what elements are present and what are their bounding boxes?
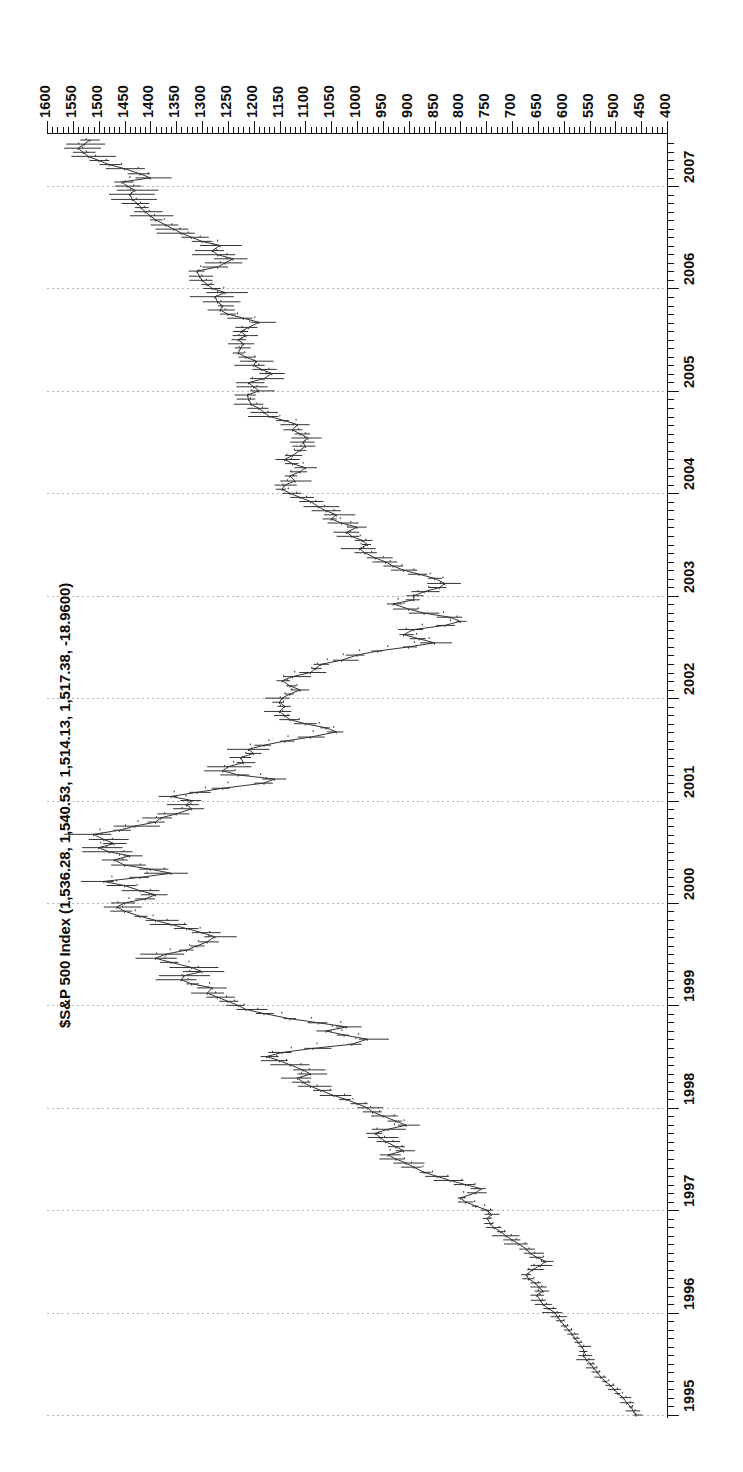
time-axis-minor-tick (668, 1389, 674, 1390)
value-axis-tick-label: 650 (528, 93, 544, 118)
time-axis-minor-tick (668, 1287, 674, 1288)
time-axis-minor-tick (668, 1338, 674, 1339)
time-axis-minor-tick (668, 476, 674, 477)
time-axis-minor-tick (668, 1355, 674, 1356)
value-axis-tick-label: 900 (399, 93, 415, 118)
time-axis-minor-tick (668, 775, 674, 776)
time-axis-minor-tick (668, 1091, 674, 1092)
time-axis-minor-tick (668, 1159, 674, 1160)
gridline (47, 801, 668, 802)
gridline (47, 1108, 668, 1109)
price-series-plot (0, 0, 743, 1472)
time-axis-minor-tick (668, 1116, 674, 1117)
time-axis-minor-tick (668, 1125, 674, 1126)
time-axis-minor-tick (668, 451, 674, 452)
time-axis-minor-tick (668, 638, 674, 639)
time-axis-minor-tick (668, 408, 674, 409)
time-axis-year-label: 2003 (681, 560, 697, 592)
time-axis-minor-tick (668, 340, 674, 341)
time-axis-minor-tick (668, 1099, 674, 1100)
time-axis-major-tick (668, 391, 679, 392)
time-axis-minor-tick (668, 1381, 674, 1382)
value-axis-labels: 1600155015001450140013501300125012001150… (0, 60, 743, 118)
time-axis-minor-tick (668, 997, 674, 998)
time-axis-year-label: 1995 (681, 1380, 697, 1412)
value-axis-baseline (47, 133, 668, 134)
time-axis-minor-tick (668, 587, 674, 588)
value-axis-tick-label: 1250 (218, 85, 234, 118)
time-axis-year-label: 2007 (681, 151, 697, 183)
time-axis-minor-tick (668, 937, 674, 938)
time-axis-minor-tick (668, 1048, 674, 1049)
time-axis-minor-tick (668, 178, 674, 179)
time-axis-year-label: 2001 (681, 765, 697, 797)
time-axis-major-tick (668, 1415, 679, 1416)
time-axis-minor-tick (668, 143, 674, 144)
time-axis-minor-tick (668, 946, 674, 947)
time-axis-minor-tick (668, 1133, 674, 1134)
time-axis-minor-tick (668, 1150, 674, 1151)
time-axis-minor-tick (668, 766, 674, 767)
time-axis-minor-tick (668, 835, 674, 836)
time-axis-minor-tick (668, 1031, 674, 1032)
time-axis-minor-tick (668, 690, 674, 691)
time-axis-minor-tick (668, 536, 674, 537)
time-axis-minor-tick (668, 732, 674, 733)
time-axis-minor-tick (668, 570, 674, 571)
value-axis-tick-label: 1100 (295, 86, 311, 118)
time-axis-minor-tick (668, 1082, 674, 1083)
time-axis-minor-tick (668, 1406, 674, 1407)
time-axis-minor-tick (668, 1321, 674, 1322)
value-axis-tick-label: 850 (425, 93, 441, 118)
time-axis-minor-tick (668, 1347, 674, 1348)
time-axis-minor-tick (668, 434, 674, 435)
time-axis-minor-tick (668, 630, 674, 631)
time-axis-minor-tick (668, 1261, 674, 1262)
time-axis-minor-tick (668, 314, 674, 315)
time-axis-minor-tick (668, 758, 674, 759)
time-axis-minor-tick (668, 613, 674, 614)
time-axis-major-tick (668, 288, 679, 289)
time-axis-minor-tick (668, 877, 674, 878)
value-axis-tick-label: 1600 (37, 85, 53, 118)
time-axis-minor-tick (668, 621, 674, 622)
gridline (47, 391, 668, 392)
time-axis-minor-tick (668, 519, 674, 520)
time-axis-minor-tick (668, 894, 674, 895)
time-axis-minor-tick (668, 809, 674, 810)
time-axis-minor-tick (668, 1253, 674, 1254)
time-axis-year-label: 2004 (681, 458, 697, 490)
time-axis-year-label: 2006 (681, 253, 697, 285)
gridline (47, 698, 668, 699)
value-axis-tick-label: 1150 (270, 86, 286, 118)
time-axis-minor-tick (668, 1185, 674, 1186)
ohlc-bars-group (64, 138, 642, 1416)
time-axis-minor-tick (668, 442, 674, 443)
value-axis-tick-label: 700 (502, 93, 518, 118)
gridline (47, 1415, 668, 1416)
time-axis-minor-tick (668, 1330, 674, 1331)
gridline (47, 493, 668, 494)
time-axis-minor-tick (668, 920, 674, 921)
time-axis-major-tick (668, 596, 679, 597)
time-axis-minor-tick (668, 468, 674, 469)
value-axis-tick-label: 450 (631, 93, 647, 118)
time-axis-minor-tick (668, 348, 674, 349)
gridline (47, 1210, 668, 1211)
time-axis-year-label: 2000 (681, 868, 697, 900)
time-axis-minor-tick (668, 869, 674, 870)
time-axis-minor-tick (668, 681, 674, 682)
time-axis-major-tick (668, 801, 679, 802)
time-axis-minor-tick (668, 502, 674, 503)
time-axis-minor-tick (668, 792, 674, 793)
value-axis-tick-label: 1000 (347, 85, 363, 118)
time-axis-minor-tick (668, 971, 674, 972)
time-axis-minor-tick (668, 1296, 674, 1297)
time-axis-minor-tick (668, 911, 674, 912)
time-axis-minor-tick (668, 707, 674, 708)
time-axis-minor-tick (668, 724, 674, 725)
time-axis-minor-tick (668, 331, 674, 332)
time-axis-minor-tick (668, 860, 674, 861)
time-axis-minor-tick (668, 1227, 674, 1228)
value-axis-tick-label: 400 (657, 93, 673, 118)
